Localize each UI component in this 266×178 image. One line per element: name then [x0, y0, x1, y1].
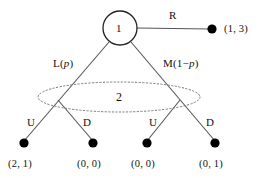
information-set-label: 2: [116, 91, 122, 103]
payoff-right-down: (0, 1): [199, 159, 223, 170]
terminal-node-right: [207, 24, 216, 33]
action-label-m: M(1−p): [163, 58, 199, 69]
payoff-left-down: (0, 0): [77, 159, 101, 170]
payoff-right-terminal: (1, 3): [224, 24, 248, 35]
action-label-left-down: D: [83, 117, 91, 128]
terminal-node-right-up: [142, 138, 151, 147]
edge-root-to-right-terminal: [137, 28, 209, 29]
terminal-node-right-down: [210, 138, 219, 147]
payoff-left-up: (2, 1): [8, 159, 32, 170]
action-label-m-end: ): [195, 57, 199, 69]
action-label-right-up: U: [149, 117, 157, 128]
action-label-right-down: D: [206, 117, 214, 128]
action-label-l-main: L(: [53, 57, 64, 69]
terminal-node-left-down: [88, 138, 97, 147]
payoff-right-up: (0, 0): [131, 159, 155, 170]
game-tree-figure: 1 2 R L(p) M(1−p) U D U D (1, 3) (2, 1) …: [0, 0, 266, 178]
action-label-l-end: ): [70, 57, 74, 69]
action-label-l: L(p): [53, 58, 73, 69]
player-1-node-label: 1: [116, 23, 122, 34]
action-label-left-up: U: [27, 117, 35, 128]
terminal-node-left-up: [19, 138, 28, 147]
action-label-r: R: [169, 10, 177, 21]
action-label-m-main: M(1−: [163, 57, 189, 69]
